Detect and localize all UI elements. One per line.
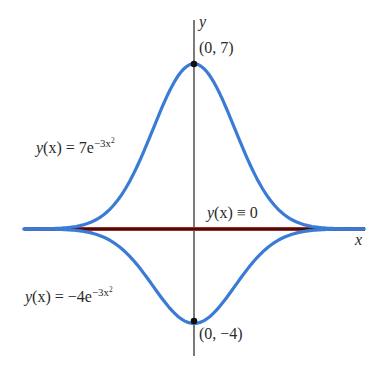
zero-curve-label: y(x) ≡ 0 [207, 205, 258, 221]
x-axis-label: x [355, 232, 362, 248]
point-0-7 [191, 61, 198, 68]
bottom-point-label: (0, −4) [199, 326, 243, 342]
solution-curves-diagram [0, 0, 381, 373]
y-axis-label: y [199, 14, 206, 30]
point-0-neg4 [191, 318, 198, 325]
top-point-label: (0, 7) [199, 40, 234, 56]
top-curve-label: y(x) = 7e−3x2 [36, 140, 115, 156]
bottom-curve-label: y(x) = −4e−3x2 [25, 289, 113, 305]
